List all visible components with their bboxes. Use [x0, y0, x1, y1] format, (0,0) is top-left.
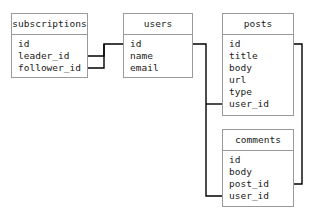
field-name: name [130, 50, 192, 62]
table-title: subscriptions [12, 14, 87, 35]
field-leader-id: leader_id [18, 50, 87, 62]
field-url: url [229, 74, 293, 86]
field-post-id: post_id [229, 178, 293, 190]
field-title: title [229, 50, 293, 62]
table-title: posts [223, 14, 293, 35]
field-user-id: user_id [229, 98, 293, 110]
table-title: comments [223, 130, 293, 151]
field-email: email [130, 62, 192, 74]
field-body: body [229, 62, 293, 74]
table-subscriptions: subscriptions id leader_id follower_id [11, 13, 88, 78]
table-users: users id name email [123, 13, 193, 78]
table-comments: comments id body post_id user_id [222, 129, 294, 207]
field-follower-id: follower_id [18, 62, 87, 74]
field-id: id [18, 38, 87, 50]
table-posts: posts id title body url type user_id [222, 13, 294, 116]
field-id: id [130, 38, 192, 50]
field-user-id: user_id [229, 190, 293, 202]
field-type: type [229, 86, 293, 98]
table-title: users [124, 14, 192, 35]
field-body: body [229, 166, 293, 178]
field-id: id [229, 38, 293, 50]
field-id: id [229, 154, 293, 166]
